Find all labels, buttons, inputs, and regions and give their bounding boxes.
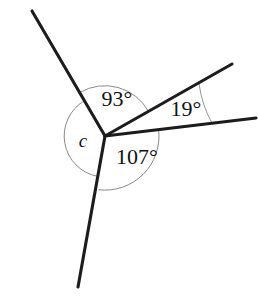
label-angle-93: 93° <box>102 86 133 111</box>
ray-lower-left <box>78 136 105 287</box>
figure-canvas: 93° 19° 107° c <box>0 0 258 297</box>
label-angle-c: c <box>79 130 88 151</box>
angle-diagram: 93° 19° 107° c <box>0 0 258 297</box>
label-angle-19: 19° <box>171 96 202 121</box>
label-angle-107: 107° <box>116 144 158 169</box>
